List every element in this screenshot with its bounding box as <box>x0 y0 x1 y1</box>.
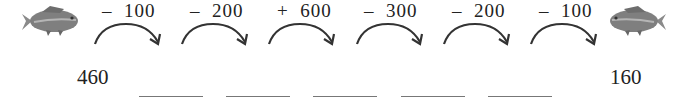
step-label: – 300 <box>364 0 418 22</box>
answer-blank-2[interactable] <box>226 96 290 97</box>
arc-arrow-icon <box>354 20 426 48</box>
end-value: 160 <box>610 65 642 90</box>
answer-blank-4[interactable] <box>401 96 465 97</box>
fish-icon <box>20 4 82 38</box>
step-label: – 100 <box>539 0 593 22</box>
step-label: – 100 <box>102 0 156 22</box>
arc-arrow-icon <box>179 20 251 48</box>
answer-blank-5[interactable] <box>488 96 552 97</box>
arc-arrow-icon <box>528 20 600 48</box>
step-label: + 600 <box>277 0 332 22</box>
answer-blank-1[interactable] <box>139 96 203 97</box>
start-value: 460 <box>77 65 109 90</box>
step-label: – 200 <box>452 0 506 22</box>
arc-arrow-icon <box>266 20 338 48</box>
arc-arrow-icon <box>92 20 164 48</box>
step-label: – 200 <box>190 0 244 22</box>
arc-arrow-icon <box>441 20 513 48</box>
answer-blank-3[interactable] <box>313 96 377 97</box>
fish-icon <box>606 4 668 38</box>
